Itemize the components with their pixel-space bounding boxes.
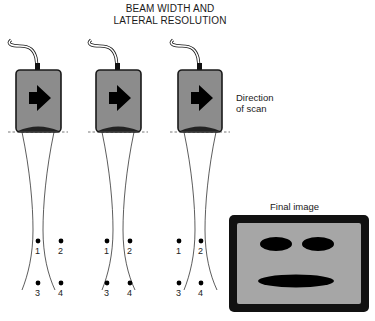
direction-line-2: of scan [236,103,274,114]
svg-text:1: 1 [176,246,181,256]
svg-text:1: 1 [104,246,109,256]
mouth [258,275,334,288]
svg-text:2: 2 [198,246,203,256]
final-image-label: Final image [270,201,319,212]
direction-of-scan-label: Direction of scan [236,92,274,114]
svg-text:4: 4 [198,288,203,298]
beam-outlines [22,132,217,290]
transducer-2 [89,40,141,132]
reflector-labels: 1 2 3 4 1 2 3 4 1 2 3 4 [35,246,203,298]
beam-diagram: 1 2 3 4 1 2 3 4 1 2 3 4 [0,0,375,321]
cable-icon [171,40,199,66]
svg-text:4: 4 [127,288,132,298]
svg-text:3: 3 [104,288,109,298]
direction-line-1: Direction [236,92,274,103]
svg-text:2: 2 [127,246,132,256]
svg-text:4: 4 [58,288,63,298]
svg-text:2: 2 [58,246,63,256]
final-image [229,215,369,312]
cable-icon [9,40,37,66]
svg-text:3: 3 [35,288,40,298]
svg-text:1: 1 [35,246,40,256]
left-eye [260,237,292,251]
transducer-3 [171,40,222,132]
svg-text:3: 3 [176,288,181,298]
cable-icon [89,40,117,66]
right-eye [302,237,334,251]
final-image-screen [237,223,361,304]
transducer-1 [9,40,61,132]
